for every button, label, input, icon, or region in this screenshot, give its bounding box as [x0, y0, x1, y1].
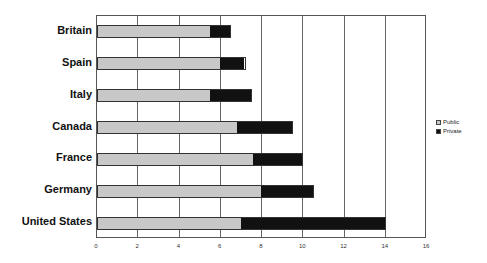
category-label: United States	[22, 215, 92, 227]
bar-segment-private	[261, 186, 312, 197]
x-tick-label: 10	[299, 243, 306, 249]
bar-segment-public	[98, 218, 241, 229]
x-tick-label: 8	[259, 243, 262, 249]
category-label: Spain	[62, 56, 92, 68]
bar-segment-private	[253, 154, 302, 165]
gridline	[302, 16, 303, 237]
category-label: Britain	[57, 24, 92, 36]
legend-swatch	[436, 120, 441, 125]
legend-item-public: Public	[436, 119, 462, 125]
bar-spain	[97, 57, 246, 70]
bar-segment-public	[98, 154, 253, 165]
bar-segment-private	[210, 90, 251, 101]
gridline	[385, 16, 386, 237]
bar-segment-private	[210, 26, 230, 37]
bar-france	[97, 153, 303, 166]
category-label: Germany	[44, 183, 92, 195]
legend-label: Public	[443, 119, 459, 125]
legend-item-private: Private	[436, 128, 462, 134]
bar-segment-public	[98, 90, 210, 101]
x-tick-label: 12	[340, 243, 347, 249]
category-label: Canada	[52, 120, 92, 132]
bar-united-states	[97, 217, 386, 230]
category-label: France	[56, 151, 92, 163]
legend-label: Private	[443, 128, 462, 134]
gridline	[344, 16, 345, 237]
x-tick-label: 0	[94, 243, 97, 249]
bar-germany	[97, 185, 314, 198]
bar-segment-private	[241, 218, 384, 229]
x-tick-label: 6	[218, 243, 221, 249]
plot-area	[96, 15, 426, 238]
bar-segment-private	[220, 58, 244, 69]
x-tick-label: 16	[423, 243, 430, 249]
x-tick-label: 14	[381, 243, 388, 249]
bar-segment-public	[98, 122, 237, 133]
bar-italy	[97, 89, 252, 102]
bar-britain	[97, 25, 231, 38]
legend-swatch	[436, 129, 441, 134]
bar-segment-public	[98, 58, 220, 69]
x-tick-label: 2	[136, 243, 139, 249]
legend: PublicPrivate	[436, 119, 462, 137]
bar-segment-public	[98, 26, 210, 37]
x-tick-label: 4	[177, 243, 180, 249]
category-label: Italy	[70, 88, 92, 100]
bar-segment-public	[98, 186, 261, 197]
bar-canada	[97, 121, 293, 134]
bar-segment-private	[237, 122, 292, 133]
